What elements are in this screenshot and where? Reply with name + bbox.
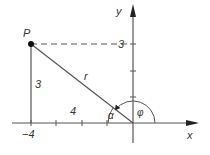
alpha-label: α [108, 110, 114, 121]
phi-label: φ [137, 107, 144, 118]
y-axis-label: y [115, 5, 123, 17]
vertical-leg-label: 3 [35, 78, 42, 90]
phi-arc [116, 101, 155, 123]
x-axis-arrow-icon [186, 120, 199, 126]
radius-line [31, 44, 133, 123]
x-axis-label: x [186, 129, 193, 141]
point-p [28, 41, 34, 47]
y-axis-arrow-icon [130, 4, 136, 17]
horizontal-leg-label: 4 [70, 105, 76, 117]
y-tick-label: 3 [118, 38, 125, 50]
radius-label: r [84, 70, 89, 82]
x-tick-label: −4 [22, 128, 35, 140]
point-label: P [23, 27, 31, 39]
polar-coordinate-diagram: P y x 3 −4 3 4 r α φ [0, 0, 210, 155]
